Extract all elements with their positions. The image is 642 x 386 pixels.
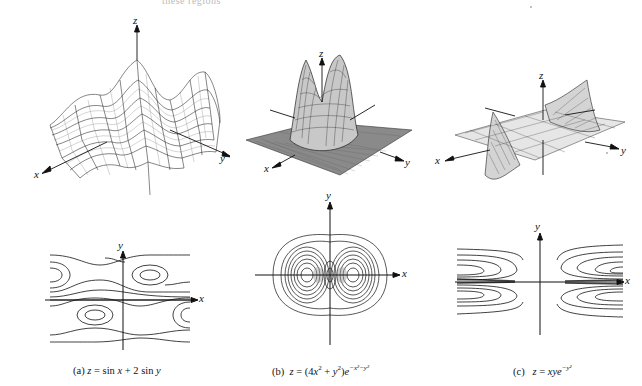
scan-speck bbox=[530, 6, 532, 8]
z-axis-label-b: z bbox=[318, 47, 324, 59]
caption-c-exp: −y² bbox=[562, 364, 572, 372]
x-axis-label-contour-b: x bbox=[402, 267, 407, 279]
surface-plot-a: z x y bbox=[20, 10, 230, 200]
contour-plot-b: y x bbox=[255, 195, 405, 345]
y-axis-label-contour-c: y bbox=[535, 220, 540, 232]
scan-speck bbox=[606, 152, 608, 154]
caption-c-xye: xye bbox=[548, 366, 562, 377]
cropped-text-fragment: these regions bbox=[162, 0, 221, 6]
y-axis-label-b: y bbox=[404, 156, 410, 168]
z-axis-label-c: z bbox=[538, 69, 544, 81]
y-axis-label-contour-a: y bbox=[118, 239, 123, 251]
caption-a: (a) z = sin x + 2 sin y bbox=[73, 365, 161, 376]
wireframe-mesh-a bbox=[50, 60, 220, 195]
caption-b-label: (b) bbox=[272, 366, 284, 377]
caption-c-eq: = bbox=[537, 366, 548, 377]
z-axis-label-a: z bbox=[132, 14, 138, 26]
x-axis-label-contour-a: x bbox=[199, 292, 204, 304]
x-axis-label-contour-c: x bbox=[625, 274, 630, 286]
caption-c: (c) z = xye−y² bbox=[513, 364, 572, 377]
peaks-b bbox=[290, 55, 358, 151]
scan-speck bbox=[617, 316, 619, 318]
caption-a-plus: + 2 sin bbox=[122, 365, 156, 376]
y-axis-label-a: y bbox=[219, 152, 225, 164]
caption-a-label: (a) bbox=[73, 365, 85, 376]
axes-contour-a bbox=[45, 251, 198, 350]
surface-plot-c: z x y bbox=[425, 60, 640, 185]
contour-lines-a bbox=[50, 255, 190, 342]
contour-plot-c: y x bbox=[455, 230, 625, 335]
caption-b-exp: −x²−y² bbox=[349, 364, 369, 372]
caption-b-eq: = (4 bbox=[294, 366, 314, 377]
caption-b-plus: + bbox=[322, 366, 333, 377]
caption-b: (b) z = (4x2 + y2)e−x²−y² bbox=[272, 364, 369, 377]
axes-contour-b bbox=[255, 202, 400, 345]
y-axis-label-contour-b: y bbox=[326, 189, 331, 201]
x-axis-label-b: x bbox=[263, 162, 269, 174]
caption-c-label: (c) bbox=[513, 366, 525, 377]
y-axis-label-c: y bbox=[620, 144, 626, 156]
x-axis-label-a: x bbox=[33, 168, 39, 180]
x-axis-label-c: x bbox=[434, 154, 440, 166]
contour-plot-a: y x bbox=[45, 250, 205, 350]
caption-a-y: y bbox=[156, 365, 161, 376]
surface-plot-b: z x y bbox=[240, 20, 415, 180]
caption-a-eq: = sin bbox=[91, 365, 117, 376]
